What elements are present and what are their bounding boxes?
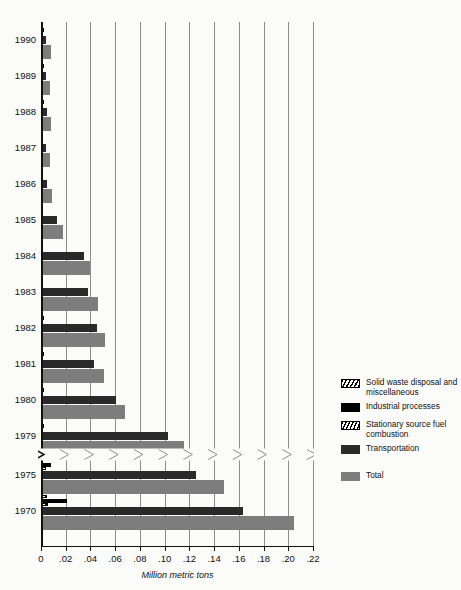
y-axis-category-label: 1980 — [15, 394, 36, 405]
x-axis-tick-label: .14 — [207, 553, 220, 564]
x-axis-tick-label: .06 — [109, 553, 122, 564]
black-swatch — [341, 403, 360, 412]
legend-item[interactable]: Total — [341, 471, 459, 484]
x-axis-tick-label: .22 — [306, 553, 319, 564]
bar-total — [41, 225, 63, 239]
bar-total — [41, 189, 52, 203]
diagonal-hatch-swatch — [341, 421, 360, 430]
y-axis-category-label: 1986 — [15, 178, 36, 189]
x-axis-tick-label: .02 — [59, 553, 72, 564]
bar-transport — [41, 324, 97, 332]
plot-area: 1990198919881987198619851984198319821981… — [41, 22, 313, 547]
year-group: 1983 — [41, 274, 313, 310]
bar-industrial — [41, 499, 67, 503]
bar-transport — [41, 216, 57, 224]
year-group: 1987 — [41, 130, 313, 166]
x-axis-tick-label: .20 — [282, 553, 295, 564]
bar-total — [41, 261, 90, 275]
year-group: 1985 — [41, 202, 313, 238]
y-axis-category-label: 1979 — [15, 430, 36, 441]
year-group: 1988 — [41, 94, 313, 130]
x-axis-tick — [313, 546, 314, 551]
cross-hatch-swatch — [341, 379, 360, 388]
year-group: 1984 — [41, 238, 313, 274]
y-axis-category-label: 1988 — [15, 106, 36, 117]
year-group: 1982 — [41, 310, 313, 346]
legend-item-label: Transportation — [366, 444, 459, 454]
y-axis-category-label: 1984 — [15, 250, 36, 261]
x-axis-tick-label: .10 — [158, 553, 171, 564]
bar-chart: 1990198919881987198619851984198319821981… — [0, 0, 461, 590]
x-axis-tick — [66, 546, 67, 551]
x-axis-tick — [140, 546, 141, 551]
bar-total — [41, 516, 294, 530]
x-axis-tick-label: .08 — [133, 553, 146, 564]
year-group: 1986 — [41, 166, 313, 202]
x-axis-tick-label: .04 — [84, 553, 97, 564]
bar-total — [41, 369, 104, 383]
y-axis-category-label: 1987 — [15, 142, 36, 153]
legend-item[interactable]: Industrial processes — [341, 402, 459, 415]
bar-total — [41, 333, 105, 347]
x-axis-tick-label: .18 — [257, 553, 270, 564]
y-axis-category-label: 1981 — [15, 358, 36, 369]
x-axis-tick — [288, 546, 289, 551]
x-axis-tick — [189, 546, 190, 551]
x-axis-tick — [90, 546, 91, 551]
year-group: 1990 — [41, 22, 313, 58]
x-axis-tick — [115, 546, 116, 551]
x-axis-tick — [239, 546, 240, 551]
x-axis-line — [41, 546, 314, 547]
bar-transport — [41, 507, 243, 515]
legend-item[interactable]: Stationary source fuel combustion — [341, 420, 459, 439]
y-axis-category-label: 1975 — [15, 469, 36, 480]
x-axis-tick — [214, 546, 215, 551]
year-group: 1970 — [41, 493, 313, 529]
year-group: 1981 — [41, 346, 313, 382]
year-group: 1989 — [41, 58, 313, 94]
y-axis-line — [41, 22, 43, 547]
gray-swatch — [341, 472, 360, 481]
year-group: 1980 — [41, 382, 313, 418]
x-axis-tick — [264, 546, 265, 551]
x-axis-tick — [41, 546, 42, 551]
legend-item-label: Industrial processes — [366, 402, 459, 412]
legend-item-label: Solid waste disposal and miscellaneous — [366, 378, 459, 397]
x-axis-tick-label: .16 — [232, 553, 245, 564]
bar-transport — [41, 471, 196, 479]
bar-transport — [41, 396, 116, 404]
year-group: 1975 — [41, 457, 313, 493]
y-axis-category-label: 1983 — [15, 286, 36, 297]
x-axis-tick — [165, 546, 166, 551]
bar-transport — [41, 252, 84, 260]
bar-transport — [41, 288, 88, 296]
x-axis-tick-label: 0 — [38, 553, 43, 564]
dark-gray-swatch — [341, 445, 360, 454]
legend: Solid waste disposal and miscellaneousIn… — [341, 378, 459, 489]
bar-total — [41, 441, 184, 455]
x-axis-title: Million metric tons — [41, 570, 314, 580]
bar-transport — [41, 360, 94, 368]
bar-total — [41, 480, 224, 494]
legend-spacer — [341, 462, 459, 471]
y-axis-category-label: 1970 — [15, 505, 36, 516]
bar-transport — [41, 432, 168, 440]
x-axis-tick-label: .12 — [183, 553, 196, 564]
bar-total — [41, 297, 98, 311]
bar-total — [41, 405, 125, 419]
y-axis-category-label: 1990 — [15, 34, 36, 45]
legend-item[interactable]: Solid waste disposal and miscellaneous — [341, 378, 459, 397]
y-axis-category-label: 1985 — [15, 214, 36, 225]
gridline — [313, 22, 314, 547]
year-group: 1979 — [41, 418, 313, 454]
y-axis-category-label: 1982 — [15, 322, 36, 333]
y-axis-category-label: 1989 — [15, 70, 36, 81]
legend-item-label: Total — [366, 471, 459, 481]
legend-item-label: Stationary source fuel combustion — [366, 420, 459, 439]
legend-item[interactable]: Transportation — [341, 444, 459, 457]
